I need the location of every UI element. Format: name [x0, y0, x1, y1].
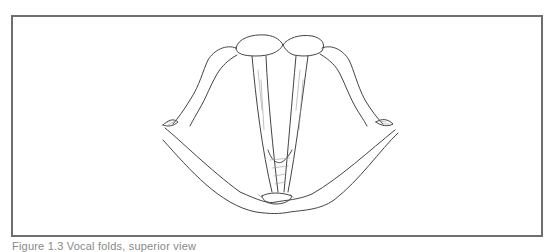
left-arytenoid — [236, 35, 283, 56]
figure-caption: Figure 1.3 Vocal folds, superior view — [12, 240, 196, 252]
right-arytenoid — [283, 35, 324, 55]
